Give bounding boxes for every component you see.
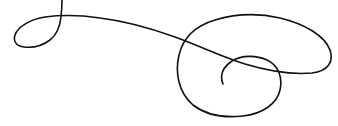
flourish-canvas: [0, 0, 338, 126]
flourish-ornament-icon: [0, 0, 338, 126]
flourish-stroke: [14, 0, 331, 117]
